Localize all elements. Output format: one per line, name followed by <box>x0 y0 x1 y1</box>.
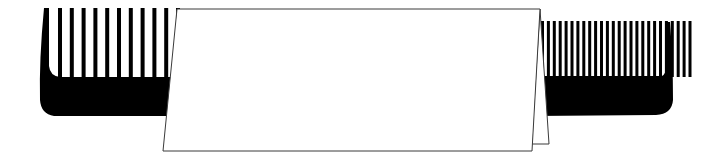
comb-tooth <box>665 21 668 77</box>
comb-tooth <box>93 8 97 78</box>
comb-and-card-illustration <box>0 0 706 162</box>
comb-tooth <box>635 21 638 77</box>
comb-tooth <box>671 21 674 77</box>
comb-tooth <box>152 8 156 78</box>
comb-tooth <box>565 21 568 77</box>
comb-tooth <box>576 21 579 77</box>
blank-card <box>163 9 540 151</box>
comb-tooth <box>117 8 121 78</box>
comb-tooth <box>571 21 574 77</box>
comb-tooth <box>82 8 86 78</box>
comb-tooth <box>164 8 168 78</box>
comb-tooth <box>582 21 585 77</box>
comb-tooth <box>606 21 609 77</box>
comb-tooth <box>547 21 550 77</box>
comb-tooth <box>677 21 680 77</box>
comb-tooth <box>141 8 145 78</box>
comb-tooth <box>683 21 686 77</box>
comb-tooth <box>647 21 650 77</box>
comb-tooth <box>653 21 656 77</box>
comb-tooth <box>659 21 662 77</box>
illustration-stage <box>0 0 706 162</box>
comb-tooth <box>689 21 692 77</box>
comb-tooth <box>553 21 556 77</box>
comb-tooth <box>600 21 603 77</box>
comb-tooth <box>559 21 562 77</box>
comb-tooth <box>105 8 109 78</box>
comb-tooth <box>641 21 644 77</box>
comb-tooth <box>630 21 633 77</box>
comb-tooth <box>129 8 133 78</box>
right-comb <box>533 21 692 116</box>
comb-tooth <box>588 21 591 77</box>
comb-tooth <box>70 8 74 78</box>
left-comb-teeth <box>58 8 180 78</box>
comb-tooth <box>624 21 627 77</box>
comb-tooth <box>594 21 597 77</box>
comb-tooth <box>612 21 615 77</box>
comb-tooth <box>58 8 62 78</box>
left-comb <box>40 8 180 116</box>
comb-tooth <box>618 21 621 77</box>
